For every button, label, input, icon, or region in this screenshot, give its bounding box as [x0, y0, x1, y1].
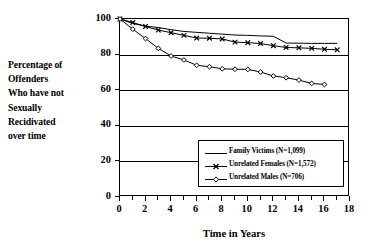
data-point-diamond-icon — [245, 67, 250, 72]
x-tick-mark — [170, 196, 171, 201]
y-axis-caption-line: Sexually — [8, 101, 104, 115]
x-tick-mark — [208, 196, 209, 200]
x-tick-mark — [157, 196, 158, 200]
y-tick-label: 0 — [85, 190, 111, 201]
x-axis-title: Time in Years — [119, 228, 349, 239]
y-tick-label: 20 — [85, 154, 111, 165]
x-tick-mark — [247, 196, 248, 201]
x-tick-label: 0 — [109, 203, 129, 214]
data-point-diamond-icon — [213, 177, 218, 182]
data-point-diamond-icon — [322, 82, 327, 87]
x-tick-mark — [311, 196, 312, 200]
x-tick-label: 16 — [313, 203, 333, 214]
x-tick-mark — [260, 196, 261, 200]
y-axis-caption-line: Percentage of — [8, 58, 104, 72]
legend-key-line-icon — [203, 145, 229, 156]
x-tick-mark — [183, 196, 184, 200]
legend-item: Family Victims (N=1,099) — [203, 144, 340, 157]
x-tick-mark — [272, 196, 273, 201]
data-point-diamond-icon — [233, 67, 238, 72]
legend-item-label: Unrelated Females (N=1,572) — [229, 160, 316, 168]
data-point-diamond-icon — [207, 64, 212, 69]
data-point-diamond-icon — [220, 66, 225, 71]
x-tick-mark — [285, 196, 286, 200]
x-tick-mark — [349, 196, 350, 201]
y-axis-caption: Percentage of Offenders Who have not Sex… — [8, 58, 104, 143]
x-tick-mark — [221, 196, 222, 201]
legend-key-cross-icon — [203, 158, 229, 169]
x-tick-mark — [132, 196, 133, 200]
data-point-diamond-icon — [258, 70, 263, 75]
y-axis-caption-line: over time — [8, 129, 104, 143]
data-point-diamond-icon — [296, 78, 301, 83]
y-tick-label: 40 — [85, 118, 111, 129]
legend-item-label: Family Victims (N=1,099) — [229, 147, 305, 155]
x-tick-label: 6 — [186, 203, 206, 214]
y-tick-label: 100 — [85, 12, 111, 23]
x-tick-mark — [336, 196, 337, 200]
series-line — [120, 19, 324, 85]
x-tick-mark — [234, 196, 235, 200]
x-tick-label: 4 — [160, 203, 180, 214]
x-tick-mark — [145, 196, 146, 201]
x-tick-mark — [196, 196, 197, 201]
data-point-diamond-icon — [309, 81, 314, 86]
x-tick-label: 14 — [288, 203, 308, 214]
series-line — [120, 19, 337, 43]
legend-item: Unrelated Males (N=706) — [203, 170, 340, 183]
x-tick-mark — [119, 196, 120, 201]
data-point-diamond-icon — [194, 63, 199, 68]
x-tick-label: 8 — [211, 203, 231, 214]
chart-figure: Percentage of Offenders Who have not Sex… — [0, 0, 381, 250]
x-tick-label: 2 — [135, 203, 155, 214]
legend-key-diamond-icon — [203, 171, 229, 182]
data-point-diamond-icon — [169, 54, 174, 59]
x-tick-label: 10 — [237, 203, 257, 214]
legend-item: Unrelated Females (N=1,572) — [203, 157, 340, 170]
data-point-diamond-icon — [271, 74, 276, 79]
y-tick-label: 60 — [85, 83, 111, 94]
x-tick-label: 18 — [339, 203, 359, 214]
y-tick-label: 80 — [85, 47, 111, 58]
x-tick-mark — [323, 196, 324, 201]
x-tick-mark — [298, 196, 299, 201]
legend-item-label: Unrelated Males (N=706) — [229, 173, 304, 181]
data-point-diamond-icon — [181, 58, 186, 63]
chart-legend: Family Victims (N=1,099) Unrelated Femal… — [198, 140, 344, 187]
x-tick-label: 12 — [262, 203, 282, 214]
data-series — [120, 19, 337, 43]
data-point-diamond-icon — [284, 75, 289, 80]
